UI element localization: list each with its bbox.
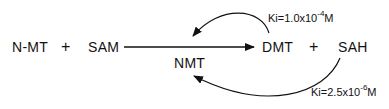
ki-dmt-label: Ki=1.0x10-4M <box>268 10 334 24</box>
enzyme-nmt: NMT <box>174 55 205 71</box>
product-dmt: DMT <box>262 39 293 55</box>
substrate-n-mt: N-MT <box>12 39 48 55</box>
ki-sah-label: Ki=2.5x10-6M <box>311 84 377 98</box>
plus-sign: + <box>61 38 71 56</box>
substrate-sam: SAM <box>88 39 119 55</box>
feedback-arrow-dmt <box>193 13 269 36</box>
product-sah: SAH <box>338 39 368 55</box>
plus-sign: + <box>309 38 319 56</box>
